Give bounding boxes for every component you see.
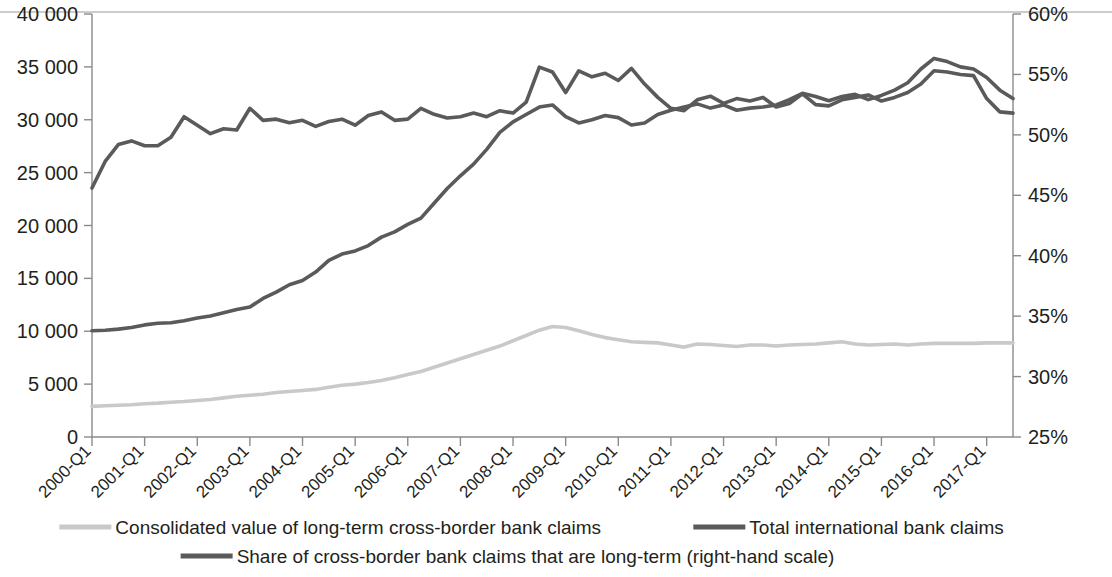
- line-chart: 05 00010 00015 00020 00025 00030 00035 0…: [0, 0, 1112, 577]
- x-axis-tick-label: 2014-Q1: [771, 441, 831, 501]
- x-axis-tick-label: 2008-Q1: [456, 441, 516, 501]
- x-axis-tick-label: 2013-Q1: [719, 441, 779, 501]
- x-axis-tick-label: 2010-Q1: [561, 441, 621, 501]
- right-axis-tick-label: 25%: [1028, 426, 1068, 448]
- right-axis-tick-label: 40%: [1028, 245, 1068, 267]
- x-axis-tick-label: 2012-Q1: [666, 441, 726, 501]
- series-lines: [92, 58, 1013, 406]
- chart-legend: Consolidated value of long-term cross-bo…: [59, 517, 1003, 567]
- right-percent-axis: 25%30%35%40%45%50%55%60%: [1013, 3, 1068, 448]
- x-axis-tick-label: 2017-Q1: [929, 441, 989, 501]
- x-axis-tick-label: 2007-Q1: [403, 441, 463, 501]
- right-axis-tick-label: 55%: [1028, 63, 1068, 85]
- legend-label-3: Share of cross-border bank claims that a…: [237, 546, 835, 567]
- right-axis-tick-label: 45%: [1028, 184, 1068, 206]
- right-axis-tick-label: 50%: [1028, 124, 1068, 146]
- left-axis-tick-label: 40 000: [17, 3, 78, 25]
- left-axis-tick-label: 0: [67, 426, 78, 448]
- left-axis-tick-label: 5 000: [28, 373, 78, 395]
- x-category-axis: 2000-Q12001-Q12002-Q12003-Q12004-Q12005-…: [35, 437, 990, 502]
- legend-label-2: Total international bank claims: [749, 517, 1004, 538]
- chart-container: 05 00010 00015 00020 00025 00030 00035 0…: [0, 0, 1112, 577]
- x-axis-tick-label: 2000-Q1: [35, 441, 95, 501]
- right-axis-tick-label: 35%: [1028, 305, 1068, 327]
- left-value-axis: 05 00010 00015 00020 00025 00030 00035 0…: [17, 3, 92, 448]
- x-axis-tick-label: 2009-Q1: [508, 441, 568, 501]
- left-axis-tick-label: 35 000: [17, 56, 78, 78]
- left-axis-tick-label: 15 000: [17, 267, 78, 289]
- plot-frame: [92, 14, 1013, 437]
- left-axis-tick-label: 20 000: [17, 215, 78, 237]
- series-line-3: [92, 67, 1013, 188]
- x-axis-tick-label: 2004-Q1: [245, 441, 305, 501]
- series-line-1: [92, 326, 1013, 406]
- legend-label-1: Consolidated value of long-term cross-bo…: [115, 517, 601, 538]
- right-axis-tick-label: 60%: [1028, 3, 1068, 25]
- x-axis-tick-label: 2011-Q1: [614, 441, 673, 500]
- left-axis-tick-label: 25 000: [17, 162, 78, 184]
- left-axis-tick-label: 30 000: [17, 109, 78, 131]
- x-axis-tick-label: 2006-Q1: [350, 441, 410, 501]
- left-axis-tick-label: 10 000: [17, 320, 78, 342]
- x-axis-tick-label: 2005-Q1: [298, 441, 358, 501]
- x-axis-tick-label: 2016-Q1: [877, 441, 937, 501]
- x-axis-tick-label: 2002-Q1: [140, 441, 200, 501]
- x-axis-tick-label: 2003-Q1: [192, 441, 252, 501]
- x-axis-tick-label: 2001-Q1: [87, 441, 147, 501]
- right-axis-tick-label: 30%: [1028, 366, 1068, 388]
- x-axis-tick-label: 2015-Q1: [824, 441, 884, 501]
